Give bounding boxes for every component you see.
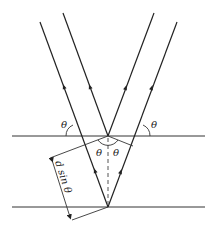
bragg-diagram: θ θ θ θ d sin θ (0, 0, 216, 231)
angle-arc-left (66, 125, 73, 136)
perp-line-bottom (72, 207, 108, 220)
theta-inner-right-label: θ (113, 147, 119, 158)
incident-ray-outer (40, 22, 108, 207)
incident-ray-inner (63, 13, 108, 136)
angle-arc-right (143, 125, 150, 136)
theta-left-label: θ (61, 119, 67, 130)
diagram-canvas: θ θ θ θ d sin θ (0, 0, 216, 231)
d-sin-theta-label: d sin θ (53, 159, 74, 194)
reflected-ray-outer (108, 22, 177, 207)
reflected-ray-inner (108, 13, 154, 136)
theta-right-label: θ (151, 119, 157, 130)
theta-inner-left-label: θ (96, 147, 102, 158)
